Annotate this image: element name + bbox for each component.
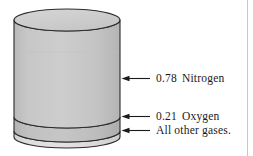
oxygen-fraction: 0.21 xyxy=(156,110,177,122)
air-composition-figure: 0.78Nitrogen 0.21Oxygen All other gases. xyxy=(0,0,253,156)
label-oxygen: 0.21Oxygen xyxy=(156,110,220,122)
page-edge-rule xyxy=(247,0,248,156)
cylinder-top-face xyxy=(14,9,120,31)
band-nitrogen xyxy=(14,20,120,128)
nitrogen-fraction: 0.78 xyxy=(156,72,177,84)
oxygen-gas-name: Oxygen xyxy=(182,110,220,122)
other-gases-name: All other gases. xyxy=(156,124,231,136)
label-nitrogen: 0.78Nitrogen xyxy=(156,72,224,84)
arrow-to-other-gases xyxy=(122,128,151,133)
arrow-to-oxygen xyxy=(122,114,151,119)
arrow-to-nitrogen xyxy=(122,76,151,81)
nitrogen-gas-name: Nitrogen xyxy=(182,72,224,84)
label-other-gases: All other gases. xyxy=(156,124,231,136)
